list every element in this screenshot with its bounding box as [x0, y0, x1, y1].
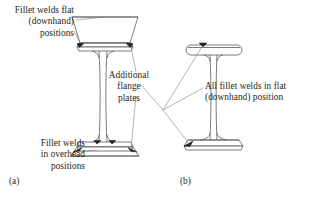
beam-b-fillet-tl: [204, 55, 210, 61]
beam-b-fillet-br: [217, 133, 227, 140]
callout-all-fillet-welds-flat: All fillet welds in flat (downhand) posi…: [205, 81, 309, 104]
welded-beam-figure: .ln { fill: none; stroke: #58595b; strok…: [0, 0, 310, 200]
subcaption-b: (b): [180, 176, 191, 187]
leader-b-top: [163, 45, 203, 110]
leader-additional-top: [131, 47, 136, 72]
beam-a-fillet-tl: [92, 51, 99, 58]
callout-fillet-welds-flat: Fillet welds flat (downhand) positions: [0, 5, 74, 39]
callout-additional-flange-plates: Additional flange plates: [98, 70, 160, 104]
beam-b-fillet-tr: [217, 55, 223, 61]
beam-a-bottom-flange-plate: [77, 147, 133, 151]
leader-b-note: [163, 88, 203, 110]
beam-a-top-flange-plate: [77, 43, 133, 51]
leader-b-bottom: [163, 110, 190, 145]
callout-fillet-welds-overhead: Fillet welds in overhead positions: [0, 138, 85, 172]
subcaption-a: (a): [9, 176, 19, 187]
beam-b-fillet-bl: [200, 133, 210, 140]
beam-a-top-flange: [72, 17, 138, 43]
beam-b-top-flange: [186, 45, 242, 55]
beam-a-fillet-tr: [107, 51, 114, 58]
